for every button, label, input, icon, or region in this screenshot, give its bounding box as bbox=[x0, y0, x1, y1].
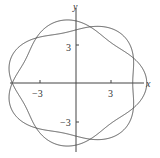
x-tick-label-neg3: −3 bbox=[32, 88, 43, 99]
chart: x −3 3 y 3 −3 bbox=[0, 0, 160, 158]
y-tick-label-3: 3 bbox=[66, 42, 71, 53]
y-tick-label-neg3: −3 bbox=[60, 117, 71, 128]
x-tick-label-3: 3 bbox=[108, 88, 113, 99]
y-axis: y 3 −3 bbox=[60, 1, 79, 152]
y-axis-label: y bbox=[72, 1, 78, 12]
x-axis: x −3 3 bbox=[10, 78, 151, 99]
